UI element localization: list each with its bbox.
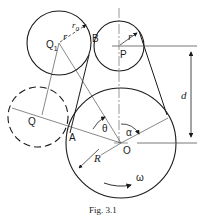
label-o: O <box>123 145 131 156</box>
tangent-line-p-o <box>139 31 167 115</box>
line-q1-q <box>42 43 59 115</box>
label-b: B <box>92 33 99 44</box>
label-q: Q <box>28 116 36 127</box>
tangent-line-q1-o <box>70 55 89 133</box>
label-omega: ω <box>136 172 144 183</box>
label-r-small: r <box>63 30 68 42</box>
label-a: A <box>69 132 76 143</box>
label-theta: θ <box>102 123 108 134</box>
label-p: P <box>120 49 127 60</box>
label-q1: Q1 <box>46 39 58 52</box>
label-d: d <box>181 89 187 101</box>
circle-q-dashed <box>8 87 68 147</box>
label-r0: r0 <box>72 20 80 33</box>
rotation-omega-arrow <box>104 183 131 186</box>
mechanism-diagram: Q1 B P Q A O r0 r r d θ α R ω Fig. 3.1 <box>0 0 206 216</box>
label-R: R <box>93 152 101 164</box>
label-r: r <box>128 30 133 42</box>
figure-caption: Fig. 3.1 <box>89 205 117 215</box>
label-alpha: α <box>126 127 132 138</box>
line-o-lower <box>101 143 121 155</box>
